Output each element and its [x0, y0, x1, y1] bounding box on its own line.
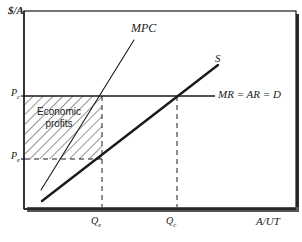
- economics-diagram: $/A MPC S MR = AR = D Pc Pe Qe Qc A/UT E…: [0, 0, 302, 242]
- quantity-tick-qe: Qe: [91, 216, 101, 229]
- mpc-curve-label: MPC: [131, 22, 156, 34]
- x-axis-label: A/UT: [256, 216, 280, 227]
- price-tick-pc-sub: c: [17, 93, 20, 100]
- quantity-tick-qe-sub: e: [98, 221, 101, 228]
- economic-profits-line2: profits: [45, 118, 72, 129]
- quantity-tick-qc-sub: c: [173, 221, 176, 228]
- quantity-tick-qc: Qc: [166, 216, 176, 229]
- price-tick-pe: Pe: [11, 151, 20, 164]
- supply-curve-label: S: [215, 53, 221, 64]
- demand-curve-label: MR = AR = D: [218, 89, 281, 100]
- economic-profits-label: Economic profits: [28, 106, 90, 130]
- price-tick-pc: Pc: [11, 88, 20, 101]
- price-tick-pe-sub: e: [17, 156, 20, 163]
- economic-profits-line1: Economic: [37, 106, 81, 117]
- y-axis-label: $/A: [8, 5, 24, 16]
